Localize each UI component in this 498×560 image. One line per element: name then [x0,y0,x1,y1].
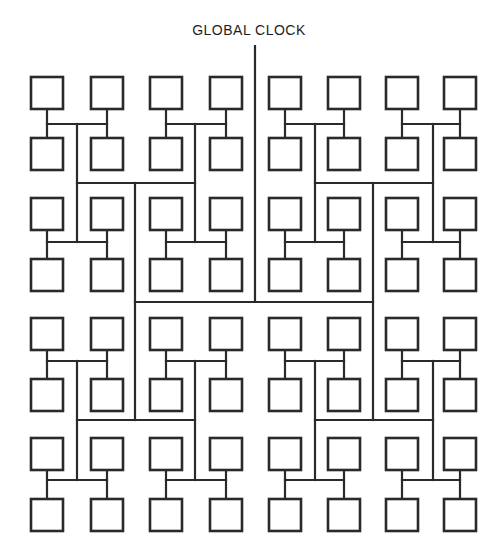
clock-leaf-box [91,198,123,230]
clock-leaf-box [444,438,476,470]
clock-leaf-box [210,318,242,350]
clock-leaf-box [444,379,476,411]
clock-leaf-box [386,138,418,170]
clock-leaf-box [91,318,123,350]
clock-leaf-box [444,499,476,531]
clock-leaf-box [444,318,476,350]
clock-leaf-box [210,379,242,411]
clock-leaf-box [328,499,360,531]
clock-leaf-box [150,138,182,170]
clock-leaf-box [386,198,418,230]
clock-leaf-box [31,318,63,350]
clock-leaf-box [386,438,418,470]
clock-leaf-box [31,259,63,291]
clock-leaf-box [386,318,418,350]
clock-leaf-box [386,77,418,109]
clock-leaf-box [269,499,301,531]
clock-leaf-box [328,379,360,411]
clock-leaf-boxes [31,77,476,531]
clock-leaf-box [328,318,360,350]
clock-leaf-box [269,259,301,291]
clock-leaf-box [91,77,123,109]
clock-leaf-box [150,379,182,411]
clock-leaf-box [386,259,418,291]
clock-leaf-box [31,379,63,411]
clock-leaf-box [386,499,418,531]
clock-leaf-box [386,379,418,411]
clock-leaf-box [31,138,63,170]
clock-leaf-box [328,77,360,109]
clock-leaf-box [210,77,242,109]
clock-leaf-box [328,259,360,291]
clock-leaf-box [31,77,63,109]
clock-leaf-box [91,259,123,291]
clock-leaf-box [31,198,63,230]
clock-leaf-box [444,77,476,109]
clock-leaf-box [91,138,123,170]
clock-leaf-box [91,438,123,470]
clock-leaf-box [328,438,360,470]
clock-leaf-box [91,499,123,531]
clock-leaf-box [269,318,301,350]
clock-leaf-box [269,379,301,411]
clock-leaf-box [269,77,301,109]
clock-leaf-box [269,438,301,470]
clock-leaf-box [150,259,182,291]
clock-leaf-box [444,259,476,291]
clock-leaf-box [31,438,63,470]
clock-leaf-box [210,438,242,470]
clock-leaf-box [210,138,242,170]
clock-leaf-box [444,198,476,230]
clock-leaf-box [150,198,182,230]
clock-leaf-box [269,198,301,230]
clock-leaf-box [328,198,360,230]
clock-leaf-box [150,438,182,470]
clock-leaf-box [91,379,123,411]
clock-leaf-box [210,259,242,291]
clock-leaf-box [150,499,182,531]
clock-leaf-box [150,318,182,350]
clock-leaf-box [150,77,182,109]
clock-leaf-box [444,138,476,170]
clock-leaf-box [210,499,242,531]
h-tree-diagram [0,0,498,560]
clock-leaf-box [210,198,242,230]
clock-leaf-box [269,138,301,170]
clock-leaf-box [328,138,360,170]
clock-leaf-box [31,499,63,531]
